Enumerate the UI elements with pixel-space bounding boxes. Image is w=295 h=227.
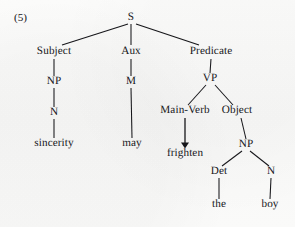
tree-node-frighten: frighten [167,148,203,159]
tree-edge-m-to-may [131,88,132,138]
syntax-tree-figure: (5) SSubjectAuxPredicateNPMVPNMain-VerbO… [0,0,295,227]
tree-node-vp: VP [203,73,218,84]
tree-node-predicate: Predicate [190,46,233,57]
tree-node-det: Det [211,166,227,177]
tree-node-subject: Subject [37,46,71,57]
tree-node-the: the [212,199,226,210]
tree-edge-s-to-subject [62,24,128,45]
tree-node-n1: N [50,107,58,118]
tree-edge-s-to-predicate [136,24,199,45]
tree-edge-vp-to-object [215,85,233,105]
tree-node-main-verb: Main-Verb [160,105,209,116]
tree-edge-vp-to-main-verb [188,85,206,105]
tree-node-aux: Aux [121,46,141,57]
tree-node-m: M [126,76,136,87]
tree-node-np2: NP [239,139,254,150]
tree-edge-predicate-to-vp [210,59,211,73]
tree-node-may: may [122,138,142,149]
tree-node-object: Object [222,105,252,116]
tree-node-s: S [128,12,134,23]
tree-edge-np2-to-det [222,151,242,166]
tree-node-np1: NP [47,76,62,87]
tree-edge-np2-to-n2 [250,151,269,166]
tree-node-n2: N [267,166,275,177]
tree-node-sincerity: sincerity [34,138,73,149]
tree-node-boy: boy [261,199,278,210]
tree-edge-object-to-np2 [241,118,246,139]
tree-edge-n2-to-boy [270,178,271,199]
